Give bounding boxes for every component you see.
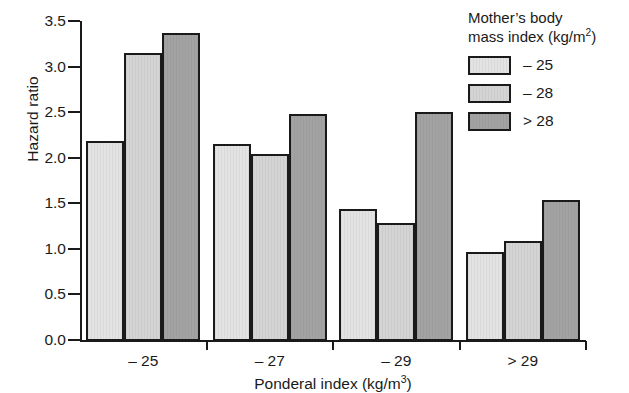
y-axis-tick-mark	[68, 157, 80, 159]
y-axis-tick-mark	[68, 248, 80, 250]
y-axis-tick-mark	[68, 66, 80, 68]
legend-title-line-2-base: mass index (kg/m	[468, 28, 586, 45]
bar	[542, 200, 580, 341]
x-axis-tick-mark	[459, 341, 461, 350]
bar	[339, 209, 377, 341]
x-axis-title-base: Ponderal index (kg/m	[254, 375, 400, 392]
y-axis-tick-mark	[68, 111, 80, 113]
x-axis-tick-mark	[332, 341, 334, 350]
y-axis-tick-label: 1.0	[24, 241, 66, 257]
bar	[86, 141, 124, 342]
legend-item: > 28	[468, 107, 629, 135]
legend-title-line-2-tail: )	[591, 28, 596, 45]
y-axis-tick-label: 3.5	[24, 13, 66, 29]
bar	[377, 223, 415, 341]
x-axis-tick-label: – 25	[83, 352, 203, 370]
y-axis-tick-labels: 0.00.51.01.52.02.53.03.5	[22, 0, 66, 393]
bar	[162, 33, 200, 341]
legend-swatch	[468, 112, 511, 131]
y-axis-tick-mark	[68, 20, 80, 22]
y-axis-tick-mark	[68, 293, 80, 295]
legend-label: – 28	[523, 84, 553, 102]
y-axis-tick-label: 2.0	[24, 150, 66, 166]
legend-entries: – 25– 28> 28	[468, 51, 629, 135]
legend-label: > 28	[523, 112, 554, 130]
legend-item: – 28	[468, 79, 629, 107]
y-axis-tick-mark	[68, 202, 80, 204]
bar	[466, 252, 504, 341]
bar	[504, 241, 542, 341]
legend-swatch	[468, 84, 511, 103]
bar	[213, 144, 251, 341]
x-axis-tick-label: – 29	[336, 352, 456, 370]
legend-title: Mother’s body mass index (kg/m2)	[468, 8, 629, 46]
y-axis-tick-label: 0.0	[24, 332, 66, 348]
x-axis-title: Ponderal index (kg/m3)	[80, 375, 586, 393]
legend-swatch	[468, 56, 511, 75]
legend-item: – 25	[468, 51, 629, 79]
legend-title-line-1: Mother’s body	[468, 8, 629, 27]
bar	[289, 114, 327, 341]
bar	[124, 53, 162, 341]
y-axis-tick-label: 1.5	[24, 195, 66, 211]
bar	[251, 154, 289, 341]
y-axis-tick-label: 3.0	[24, 59, 66, 75]
legend-label: – 25	[523, 56, 553, 74]
y-axis-tick-label: 2.5	[24, 104, 66, 120]
bar-chart-figure: Hazard ratio 0.00.51.01.52.02.53.03.5 Po…	[0, 0, 629, 393]
bar	[415, 112, 453, 341]
x-axis-tick-mark	[206, 341, 208, 350]
y-axis-tick-mark	[68, 339, 80, 341]
legend-title-line-2: mass index (kg/m2)	[468, 27, 629, 46]
x-axis-tick-label: > 29	[463, 352, 583, 370]
legend: Mother’s body mass index (kg/m2) – 25– 2…	[468, 8, 629, 135]
x-axis-title-tail: )	[407, 375, 412, 392]
x-axis-tick-mark	[585, 341, 587, 350]
x-axis-tick-label: – 27	[210, 352, 330, 370]
y-axis-tick-label: 0.5	[24, 286, 66, 302]
